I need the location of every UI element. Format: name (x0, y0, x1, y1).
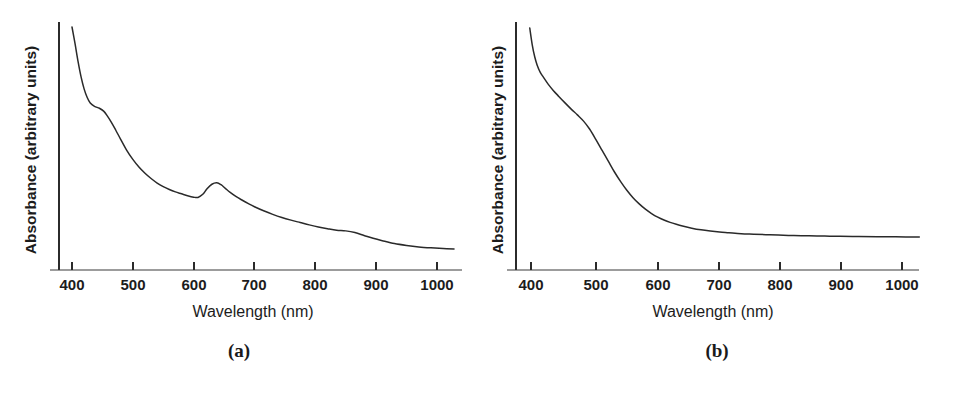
spectrum-curve-a (72, 27, 454, 249)
panel-a-caption: (a) (0, 340, 478, 362)
spectrum-curve-b (530, 28, 920, 237)
x-axis-title: Wavelength (nm) (652, 303, 773, 320)
tick-label-700: 700 (241, 276, 266, 293)
y-axis-title: Absorbance (arbitrary units) (22, 46, 39, 254)
panel-a-chart: Absorbance (arbitrary units) 400 500 600 (0, 0, 478, 340)
panel-b: Absorbance (arbitrary units) 400 500 600… (478, 0, 956, 414)
tick-label-900: 900 (363, 276, 388, 293)
x-axis-tick-labels: 400 500 600 700 800 900 1000 (59, 276, 453, 293)
tick-label-600: 600 (181, 276, 206, 293)
y-axis-title: Absorbance (arbitrary units) (489, 46, 506, 254)
x-axis-ticks (72, 262, 437, 270)
x-axis-ticks (531, 262, 902, 270)
tick-label-700: 700 (706, 276, 731, 293)
tick-label-800: 800 (302, 276, 327, 293)
figure-container: Absorbance (arbitrary units) 400 500 600 (0, 0, 956, 414)
tick-label-500: 500 (583, 276, 608, 293)
tick-label-900: 900 (828, 276, 853, 293)
tick-label-800: 800 (767, 276, 792, 293)
x-axis-title: Wavelength (nm) (192, 303, 313, 320)
tick-label-1000: 1000 (420, 276, 453, 293)
panel-b-caption: (b) (478, 340, 956, 362)
panel-a-y-axis-title-group: Absorbance (arbitrary units) (22, 46, 39, 254)
tick-label-1000: 1000 (885, 276, 918, 293)
tick-label-600: 600 (645, 276, 670, 293)
tick-label-500: 500 (120, 276, 145, 293)
tick-label-400: 400 (59, 276, 84, 293)
tick-label-400: 400 (518, 276, 543, 293)
panel-b-y-axis-title-group: Absorbance (arbitrary units) (489, 46, 506, 254)
panel-a: Absorbance (arbitrary units) 400 500 600 (0, 0, 478, 414)
x-axis-tick-labels: 400 500 600 700 800 900 1000 (518, 276, 918, 293)
panel-b-chart: Absorbance (arbitrary units) 400 500 600… (478, 0, 956, 340)
